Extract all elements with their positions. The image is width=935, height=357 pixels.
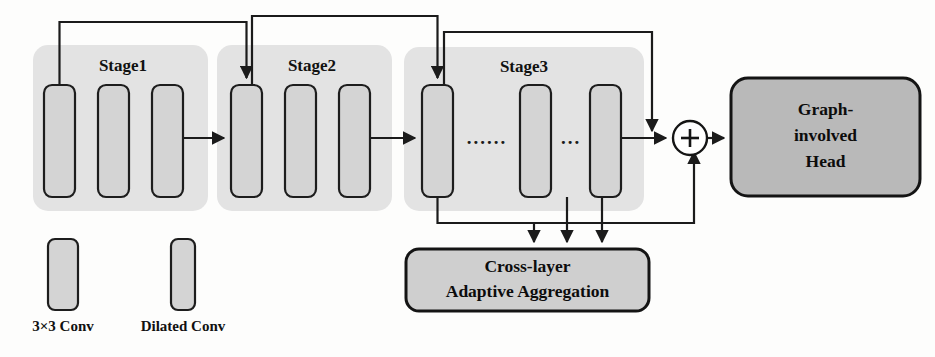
legend: 3×3 ConvDilated Conv [32, 239, 226, 334]
graph-involved-head-node[interactable]: Graph-involvedHead [731, 78, 920, 196]
conv-block-s3b2[interactable]: Dilated Conv [520, 85, 551, 197]
cross-layer-adaptive-aggregation-node[interactable]: Cross-layerAdaptive Aggregation [406, 249, 649, 311]
legend-swatch-legend-3x3-conv [48, 239, 78, 310]
agg-line-1: Adaptive Aggregation [446, 281, 610, 301]
head-line-2: Head [806, 151, 846, 171]
ellipsis-dots-short: ... [561, 127, 581, 148]
conv-block-s2b2[interactable]: 3x3 Conv [285, 85, 316, 197]
legend-label-legend-3x3-conv: 3×3 Conv [32, 318, 94, 334]
head-line-1: involved [794, 125, 857, 145]
conv-block-s3b1[interactable]: Dilated Conv [422, 85, 453, 197]
conv-block-s2b3[interactable]: 3x3 Conv [339, 85, 370, 197]
conv-block-s2b1[interactable]: 3x3 Conv [231, 85, 262, 197]
sum-node[interactable] [673, 121, 707, 155]
agg-line-0: Cross-layer [484, 256, 570, 276]
conv-block-s1b3[interactable]: 3x3 Conv [152, 85, 183, 197]
stage-label-stage2: Stage2 [288, 56, 336, 75]
diagram-root: 3x3 Conv3x3 Conv3x3 Conv3x3 Conv3x3 Conv… [0, 0, 935, 357]
architecture-diagram: 3x3 Conv3x3 Conv3x3 Conv3x3 Conv3x3 Conv… [0, 0, 935, 357]
stage-label-stage3: Stage3 [500, 57, 548, 76]
conv-block-s1b2[interactable]: 3x3 Conv [98, 85, 129, 197]
ellipsis-dots-long: ...... [467, 127, 508, 148]
conv-block-s3b3[interactable]: Dilated Conv [590, 85, 621, 197]
stage-label-stage1: Stage1 [99, 56, 147, 75]
legend-swatch-legend-dilated-conv [171, 239, 195, 310]
legend-label-legend-dilated-conv: Dilated Conv [141, 318, 226, 334]
head-line-0: Graph- [798, 99, 854, 119]
conv-block-s1b1[interactable]: 3x3 Conv [44, 85, 75, 197]
